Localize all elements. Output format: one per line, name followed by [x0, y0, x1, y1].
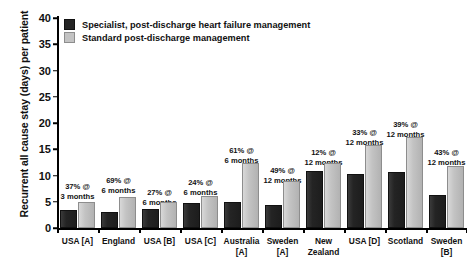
x-label-line2: Zealand [303, 247, 344, 258]
x-tick-label: USA [A] [57, 236, 98, 258]
bar-standard [447, 166, 464, 228]
bar-group: 69% @6 months [98, 18, 139, 228]
annotation-percent: 61% @ [229, 146, 254, 155]
x-label-line1: USA [B] [144, 236, 175, 246]
x-axis-ticks [57, 228, 467, 233]
bar-group: 43% @12 months [426, 18, 467, 228]
legend-swatch-icon-specialist [64, 19, 75, 30]
bar-group: 27% @6 months [139, 18, 180, 228]
x-tick-mark [98, 228, 139, 233]
x-label-line1: USA [C] [185, 236, 216, 246]
chart-legend: Specialist, post-discharge heart failure… [64, 19, 310, 45]
legend-label-standard: Standard post-discharge management [82, 33, 249, 43]
x-label-line1: Scotland [388, 236, 423, 246]
bar-specialist [101, 212, 118, 228]
x-axis-labels: USA [A]EnglandUSA [B]USA [C]Australia[A]… [57, 236, 467, 258]
annotation-percent: 39% @ [393, 120, 418, 129]
bar-group: 37% @3 months [57, 18, 98, 228]
bar-standard [406, 137, 423, 228]
x-label-line1: England [102, 236, 135, 246]
bar-specialist [142, 209, 159, 228]
x-tick-mark [303, 228, 344, 233]
bar-group: 39% @12 months [385, 18, 426, 228]
x-tick-label: NewZealand [303, 236, 344, 258]
x-label-line1: USA [A] [62, 236, 93, 246]
bar-specialist [388, 172, 405, 228]
x-tick-label: USA [D] [344, 236, 385, 258]
x-tick-label: Australia[A] [221, 236, 262, 258]
legend-item-specialist: Specialist, post-discharge heart failure… [64, 19, 310, 30]
x-label-line1: USA [D] [349, 236, 380, 246]
annotation-percent: 33% @ [352, 128, 377, 137]
bar-annotation: 69% @6 months [102, 176, 136, 196]
x-tick-mark [344, 228, 385, 233]
bar-group: 24% @6 months [180, 18, 221, 228]
annotation-percent: 27% @ [147, 188, 172, 197]
bar-specialist [60, 210, 77, 228]
annotation-percent: 49% @ [270, 166, 295, 175]
x-label-line2: [A] [262, 247, 303, 258]
bar-specialist [429, 195, 446, 229]
annotation-percent: 37% @ [65, 182, 90, 191]
annotation-percent: 12% @ [311, 148, 336, 157]
x-label-line1: Sweden [431, 236, 463, 246]
bar-group: 12% @12 months [303, 18, 344, 228]
bar-specialist [347, 174, 364, 229]
x-tick-mark [221, 228, 262, 233]
bar-standard [242, 163, 259, 228]
bar-standard [119, 197, 136, 228]
x-tick-label: USA [B] [139, 236, 180, 258]
x-label-line1: Sweden [267, 236, 299, 246]
bar-standard [78, 202, 95, 228]
bar-specialist [183, 203, 200, 228]
x-tick-mark [57, 228, 98, 233]
bar-standard [283, 181, 300, 228]
bar-group: 49% @12 months [262, 18, 303, 228]
x-tick-mark [180, 228, 221, 233]
legend-item-standard: Standard post-discharge management [64, 32, 310, 43]
annotation-period: 3 months [61, 192, 95, 202]
x-label-line1: New [315, 236, 332, 246]
bar-specialist [265, 205, 282, 228]
bar-standard [365, 145, 382, 228]
bar-chart: Recurrent all cause stay (days) per pati… [0, 0, 473, 270]
annotation-period: 6 months [102, 186, 136, 196]
x-tick-label: Sweden[A] [262, 236, 303, 258]
bar-specialist [306, 171, 323, 228]
x-tick-mark [426, 228, 467, 233]
bar-standard [324, 163, 341, 228]
x-label-line2: [A] [221, 247, 262, 258]
legend-swatch-icon-standard [64, 32, 75, 43]
annotation-percent: 69% @ [106, 176, 131, 185]
bar-annotation: 37% @3 months [61, 182, 95, 202]
legend-label-specialist: Specialist, post-discharge heart failure… [82, 20, 310, 30]
x-tick-mark [139, 228, 180, 233]
x-tick-label: USA [C] [180, 236, 221, 258]
bar-specialist [224, 202, 241, 228]
bar-groups: 37% @3 months69% @6 months27% @6 months2… [57, 18, 467, 228]
bar-group: 61% @6 months [221, 18, 262, 228]
annotation-percent: 43% @ [434, 148, 459, 157]
x-tick-label: England [98, 236, 139, 258]
x-tick-label: Scotland [385, 236, 426, 258]
x-label-line1: Australia [224, 236, 260, 246]
x-tick-mark [385, 228, 426, 233]
annotation-percent: 24% @ [188, 178, 213, 187]
x-label-line2: [B] [426, 247, 467, 258]
bar-standard [201, 196, 218, 228]
x-tick-label: Sweden[B] [426, 236, 467, 258]
bar-standard [160, 202, 177, 228]
x-tick-mark [262, 228, 303, 233]
y-axis-title: Recurrent all cause stay (days) per pati… [18, 4, 30, 224]
bar-group: 33% @12 months [344, 18, 385, 228]
